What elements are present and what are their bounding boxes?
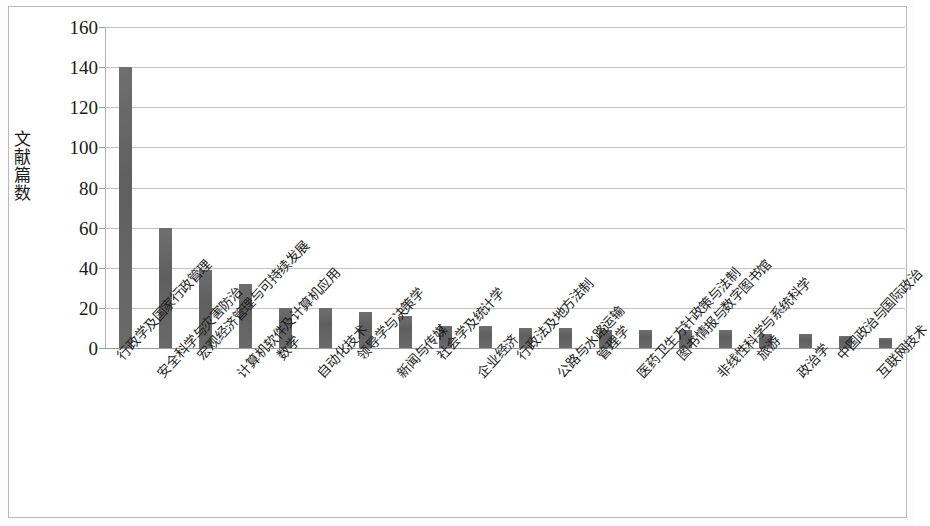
bar	[639, 330, 652, 348]
y-axis-tick-labels: 160140120100806040200	[40, 27, 98, 348]
bar	[319, 308, 332, 348]
y-axis-title: 文献篇数	[8, 130, 34, 202]
bar	[799, 334, 812, 348]
y-axis-tick-label-40: 40	[40, 259, 98, 278]
x-axis-tick-labels: 行政学及国家行政管理安全科学与灾害防治宏观经济管理与可持续发展计算机软件及计算机…	[0, 349, 915, 524]
y-axis-tick-label-80: 80	[40, 179, 98, 198]
y-axis-tick-label-120: 120	[40, 98, 98, 117]
bar	[119, 67, 132, 348]
y-axis-tick-label-60: 60	[40, 219, 98, 238]
y-axis-tick-label-160: 160	[40, 18, 98, 37]
y-axis-tick-label-140: 140	[40, 58, 98, 77]
y-axis-tick-label-100: 100	[40, 138, 98, 157]
bar	[559, 328, 572, 348]
bar	[879, 338, 892, 348]
x-axis-tick-label: 政治学	[795, 342, 831, 380]
bar	[159, 228, 172, 348]
bar	[719, 330, 732, 348]
bar	[479, 326, 492, 348]
y-axis-tick-label-20: 20	[40, 299, 98, 318]
